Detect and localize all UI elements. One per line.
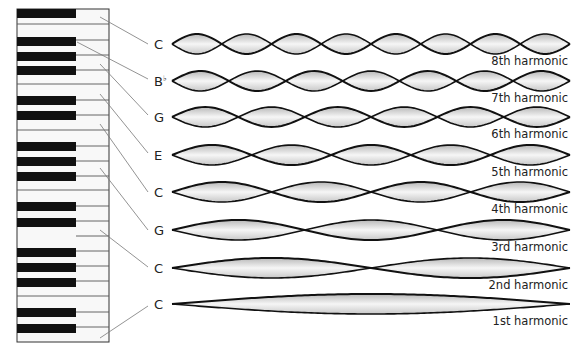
harmonic-row-3: G3rd harmonic [154, 220, 570, 254]
black-key[interactable] [17, 52, 76, 61]
black-key[interactable] [17, 278, 76, 287]
black-key[interactable] [17, 157, 76, 166]
harmonic-label: 3rd harmonic [491, 240, 568, 254]
harmonic-label: 1st harmonic [493, 314, 568, 328]
harmonic-row-7: B♭7th harmonic [154, 71, 570, 105]
black-key[interactable] [17, 66, 76, 75]
note-label: G [154, 110, 164, 125]
harmonics-diagram: C8th harmonicB♭7th harmonicG6th harmonic… [0, 0, 586, 357]
harmonic-row-8: C8th harmonic [154, 34, 570, 68]
black-key[interactable] [17, 37, 76, 46]
note-label: C [154, 185, 163, 200]
harmonic-label: 5th harmonic [491, 165, 568, 179]
black-key[interactable] [17, 111, 76, 120]
harmonic-label: 4th harmonic [491, 202, 568, 216]
harmonic-row-1: C1st harmonic [154, 294, 570, 328]
black-key[interactable] [17, 9, 76, 18]
harmonic-rows: C8th harmonicB♭7th harmonicG6th harmonic… [154, 34, 570, 328]
black-key[interactable] [17, 96, 76, 105]
harmonic-row-5: E5th harmonic [154, 145, 570, 179]
harmonic-row-4: C4th harmonic [154, 182, 570, 216]
wave-fill [172, 71, 570, 91]
harmonic-label: 2nd harmonic [489, 278, 568, 292]
harmonic-label: 7th harmonic [491, 91, 568, 105]
black-key[interactable] [17, 248, 76, 257]
black-key[interactable] [17, 324, 76, 333]
black-key[interactable] [17, 172, 76, 181]
harmonic-row-2: C2nd harmonic [154, 258, 570, 292]
black-key[interactable] [17, 142, 76, 151]
note-label: C [154, 297, 163, 312]
note-label: G [154, 223, 164, 238]
piano-keyboard [17, 9, 109, 342]
note-label: C [154, 261, 163, 276]
black-key[interactable] [17, 263, 76, 272]
harmonic-label: 8th harmonic [491, 54, 568, 68]
note-label: C [154, 37, 163, 52]
black-key[interactable] [17, 308, 76, 317]
diagram-canvas: C8th harmonicB♭7th harmonicG6th harmonic… [0, 0, 586, 357]
black-key[interactable] [17, 218, 76, 227]
harmonic-row-6: G6th harmonic [154, 107, 570, 141]
wave-fill [172, 220, 570, 240]
note-label: B♭ [154, 74, 167, 89]
black-key[interactable] [17, 202, 76, 211]
flat-sign: ♭ [163, 74, 167, 83]
note-label: E [154, 148, 162, 163]
harmonic-label: 6th harmonic [491, 127, 568, 141]
wave-fill [172, 294, 570, 314]
